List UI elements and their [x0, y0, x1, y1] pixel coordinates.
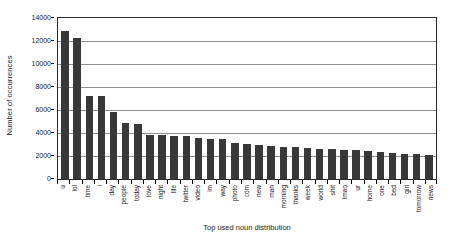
- bar-slot: [314, 18, 326, 179]
- bar-slot: [338, 18, 350, 179]
- bar-tomorrow: [413, 154, 421, 179]
- x-axis-tick-label: u: [60, 185, 67, 189]
- x-axis-label-cell: man: [266, 184, 278, 220]
- x-axis-tick-label: way: [219, 185, 226, 197]
- x-axis-label-cell: com: [241, 184, 253, 220]
- plot-area: [57, 17, 437, 180]
- bar-bed: [389, 153, 397, 179]
- bar-slot: [229, 18, 241, 179]
- x-axis-label-cell: day: [106, 184, 118, 220]
- bar-slot: [95, 18, 107, 179]
- x-axis-tick-label: photo: [232, 185, 239, 201]
- y-axis-tick-labels: 02000400060008000100001200014000: [16, 0, 54, 190]
- bar-love: [146, 135, 154, 179]
- bar-slot: [362, 18, 374, 179]
- x-axis-tick-label: home: [367, 185, 374, 201]
- bar-slot: [59, 18, 71, 179]
- x-axis-label-cell: lmao: [339, 184, 351, 220]
- bar-series: [58, 18, 436, 179]
- x-axis-tick-label: week: [305, 185, 312, 200]
- bar-slot: [253, 18, 265, 179]
- x-axis-title: Top used noun distribution: [57, 223, 437, 232]
- bar-slot: [144, 18, 156, 179]
- x-axis-label-cell: morning: [278, 184, 290, 220]
- y-axis-tick-mark: [51, 63, 54, 64]
- x-axis-label-cell: love: [143, 184, 155, 220]
- bar-twitter: [183, 136, 191, 179]
- x-axis-tick-label: one: [379, 185, 386, 196]
- x-axis-label-cell: new: [253, 184, 265, 220]
- x-axis-tick-label: ur: [354, 185, 361, 191]
- bar-com: [243, 144, 251, 179]
- x-axis-label-cell: news: [425, 184, 437, 220]
- y-axis-tick-label: 4000: [35, 129, 51, 136]
- bar-lmao: [340, 150, 348, 179]
- x-axis-tick-label: people: [121, 185, 128, 205]
- bar-one: [377, 152, 385, 179]
- x-axis-label-cell: im: [204, 184, 216, 220]
- x-axis-label-cell: one: [376, 184, 388, 220]
- x-axis-tick-labels: uloltimeidaypeopletodaylovenightlifetwit…: [57, 184, 437, 220]
- x-axis-label-cell: video: [192, 184, 204, 220]
- bar-slot: [168, 18, 180, 179]
- y-axis-tick-mark: [51, 40, 54, 41]
- bar-world: [316, 149, 324, 179]
- x-axis-tick-label: day: [109, 185, 116, 195]
- y-axis-tick-label: 14000: [32, 14, 51, 21]
- x-axis-label-cell: people: [118, 184, 130, 220]
- x-axis-tick-label: morning: [281, 185, 288, 208]
- bar-slot: [120, 18, 132, 179]
- x-axis-label-cell: home: [364, 184, 376, 220]
- x-axis-label-cell: shit: [327, 184, 339, 220]
- x-axis-label-cell: tomorrow: [413, 184, 425, 220]
- x-axis-label-cell: girl: [400, 184, 412, 220]
- bar-video: [195, 138, 203, 179]
- bar-photo: [231, 143, 239, 179]
- y-axis-tick-label: 2000: [35, 152, 51, 159]
- bar-thanks: [292, 147, 300, 179]
- bar-i: [98, 96, 106, 179]
- bar-slot: [374, 18, 386, 179]
- x-axis-tick-label: com: [244, 185, 251, 197]
- x-axis-label-cell: u: [57, 184, 69, 220]
- x-axis-tick-label: new: [256, 185, 263, 197]
- x-axis-label-cell: photo: [229, 184, 241, 220]
- bar-slot: [132, 18, 144, 179]
- bar-slot: [350, 18, 362, 179]
- x-axis-label-cell: way: [216, 184, 228, 220]
- y-axis-tick-mark: [51, 178, 54, 179]
- bar-ur: [352, 150, 360, 179]
- bar-slot: [205, 18, 217, 179]
- bar-girl: [401, 154, 409, 179]
- y-axis-tick-label: 8000: [35, 83, 51, 90]
- x-axis-tick-label: man: [268, 185, 275, 198]
- bar-lol: [73, 38, 81, 179]
- bar-slot: [71, 18, 83, 179]
- y-axis-tick-mark: [51, 155, 54, 156]
- x-axis-label-cell: week: [302, 184, 314, 220]
- x-axis-label-cell: world: [315, 184, 327, 220]
- bar-slot: [386, 18, 398, 179]
- x-axis-tick-label: i: [97, 185, 104, 186]
- y-axis-tick-mark: [51, 132, 54, 133]
- bar-slot: [302, 18, 314, 179]
- bar-slot: [156, 18, 168, 179]
- x-axis-label-cell: twitter: [180, 184, 192, 220]
- bar-slot: [108, 18, 120, 179]
- y-axis-tick-mark: [51, 109, 54, 110]
- y-axis-tick-label: 6000: [35, 106, 51, 113]
- x-axis-tick-label: thanks: [293, 185, 300, 204]
- x-axis-tick-label: bed: [391, 185, 398, 196]
- bar-slot: [241, 18, 253, 179]
- y-axis-tick-mark: [51, 86, 54, 87]
- bar-day: [110, 112, 118, 179]
- bar-slot: [192, 18, 204, 179]
- x-axis-tick-label: news: [428, 185, 435, 200]
- x-axis-tick-label: girl: [403, 185, 410, 194]
- bar-new: [255, 145, 263, 179]
- x-axis-tick-label: video: [195, 185, 202, 201]
- bar-way: [219, 139, 227, 179]
- x-axis-tick-label: night: [158, 185, 165, 199]
- bar-slot: [277, 18, 289, 179]
- bar-slot: [180, 18, 192, 179]
